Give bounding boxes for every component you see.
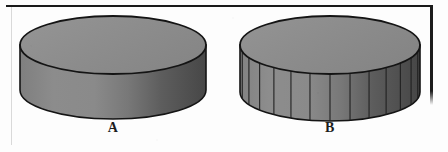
cylinder-a-drawing: [0, 0, 224, 130]
cylinder-b-top-face: [240, 16, 420, 74]
cylinder-b-label: B: [310, 120, 350, 136]
cylinder-b: B: [224, 0, 448, 130]
cylinder-a: A: [0, 0, 224, 130]
cylinder-a-label: A: [93, 120, 133, 136]
cylinder-b-drawing: [224, 0, 448, 130]
cylinder-a-top-face: [20, 16, 206, 74]
figure-canvas: A: [0, 0, 448, 152]
